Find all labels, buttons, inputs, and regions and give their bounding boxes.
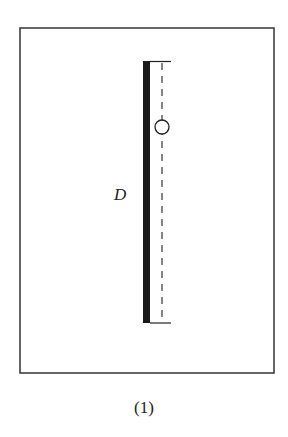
- figure-caption: (1): [0, 398, 288, 418]
- diagram: D: [0, 0, 288, 437]
- small-circle: [155, 120, 169, 134]
- thick-bar: [143, 61, 150, 323]
- label-d: D: [113, 185, 127, 204]
